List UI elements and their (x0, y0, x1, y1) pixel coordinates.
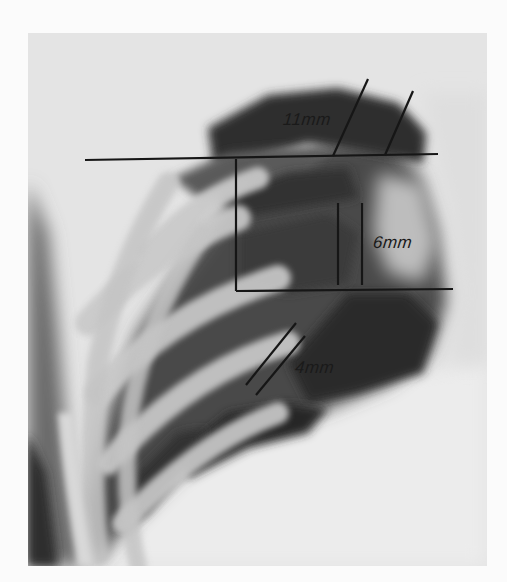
measurement-label-lower: 4mm (294, 358, 335, 378)
radiograph-image (28, 33, 487, 566)
chest-radiograph: 11mm 6mm 4mm (28, 33, 487, 566)
figure-page: 11mm 6mm 4mm (0, 0, 507, 582)
measurement-label-middle: 6mm (372, 233, 413, 253)
measurement-label-upper: 11mm (282, 110, 332, 130)
